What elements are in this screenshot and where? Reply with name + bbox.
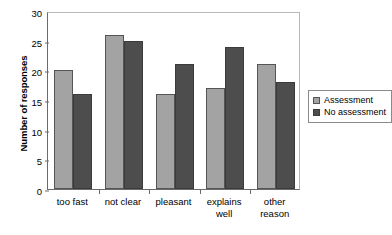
x-axis-labels: too fastnot clearpleasantexplainswelloth…	[47, 196, 300, 230]
legend-swatch-icon	[313, 109, 320, 116]
y-tick-label: 0	[2, 186, 48, 197]
bar	[54, 70, 73, 189]
y-tickmark	[45, 191, 49, 192]
bar	[73, 94, 92, 189]
bar	[124, 41, 143, 189]
x-axis-category-label: explainswell	[199, 196, 250, 220]
x-axis-category-label: otherreason	[249, 196, 300, 220]
bar	[276, 82, 295, 189]
x-axis-category-label: too fast	[47, 196, 98, 208]
legend: AssessmentNo assessment	[308, 90, 392, 123]
y-tick-label: 15	[2, 97, 48, 108]
legend-item: No assessment	[313, 106, 386, 118]
y-tick-label: 25	[2, 37, 48, 48]
x-axis-category-label: not clear	[98, 196, 149, 208]
y-tick-label: 30	[2, 8, 48, 19]
bar	[206, 88, 225, 189]
x-tickmark	[149, 189, 150, 194]
bars-layer	[48, 13, 299, 189]
legend-label: No assessment	[324, 106, 386, 118]
bar	[225, 47, 244, 189]
plot-area: 051015202530	[47, 12, 300, 190]
x-tickmark	[99, 189, 100, 194]
legend-swatch-icon	[313, 97, 320, 104]
y-tick-label: 5	[2, 156, 48, 167]
x-tickmark	[200, 189, 201, 194]
legend-item: Assessment	[313, 94, 386, 106]
bar	[105, 35, 124, 189]
bar	[175, 64, 194, 189]
y-tick-label: 10	[2, 126, 48, 137]
legend-label: Assessment	[324, 94, 373, 106]
y-tick-label: 20	[2, 67, 48, 78]
bar	[257, 64, 276, 189]
bar	[156, 94, 175, 189]
x-tickmark	[250, 189, 251, 194]
x-axis-category-label: pleasant	[148, 196, 199, 208]
